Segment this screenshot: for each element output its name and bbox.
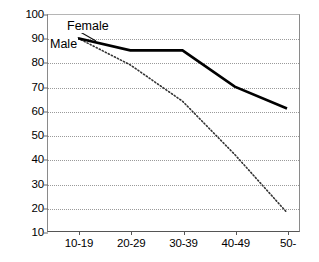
gridline-y-20 [48, 209, 299, 210]
x-tick-mark-3 [236, 231, 237, 235]
y-tick-mark-10 [44, 233, 48, 234]
y-tick-mark-90 [44, 39, 48, 40]
x-tick-mark-0 [79, 231, 80, 235]
y-tick-mark-60 [44, 111, 48, 112]
gridline-y-90 [48, 39, 299, 40]
gridline-y-30 [48, 185, 299, 186]
y-tick-label-40: 40 [32, 155, 44, 167]
y-tick-mark-30 [44, 184, 48, 185]
y-tick-mark-80 [44, 63, 48, 64]
x-tick-label-0: 10-19 [65, 238, 93, 250]
y-tick-label-100: 100 [25, 9, 44, 21]
y-tick-mark-20 [44, 208, 48, 209]
x-tick-label-2: 30-39 [169, 238, 197, 250]
series-annotation-male: Male [49, 38, 78, 51]
gridline-y-80 [48, 63, 299, 64]
x-tick-mark-2 [184, 231, 185, 235]
line-chart: 10203040506070809010010-1920-2930-3940-4… [0, 0, 319, 262]
y-tick-mark-50 [44, 136, 48, 137]
gridline-y-70 [48, 88, 299, 89]
y-tick-label-60: 60 [32, 106, 44, 118]
x-tick-label-3: 40-49 [222, 238, 250, 250]
x-tick-mark-1 [131, 231, 132, 235]
y-tick-label-30: 30 [32, 179, 44, 191]
y-tick-mark-70 [44, 87, 48, 88]
y-tick-label-10: 10 [32, 227, 44, 239]
series-annotation-female: Female [66, 20, 110, 33]
y-tick-label-80: 80 [32, 58, 44, 70]
gridline-y-40 [48, 160, 299, 161]
y-tick-mark-40 [44, 160, 48, 161]
y-tick-label-90: 90 [32, 33, 44, 45]
x-tick-mark-4 [288, 231, 289, 235]
plot-area: 10203040506070809010010-1920-2930-3940-4… [47, 14, 300, 232]
y-tick-label-50: 50 [32, 130, 44, 142]
y-tick-mark-100 [44, 15, 48, 16]
y-tick-label-70: 70 [32, 82, 44, 94]
x-tick-label-4: 50- [280, 238, 296, 250]
gridline-y-60 [48, 112, 299, 113]
x-tick-label-1: 20-29 [117, 238, 145, 250]
y-tick-label-20: 20 [32, 203, 44, 215]
gridline-y-50 [48, 136, 299, 137]
